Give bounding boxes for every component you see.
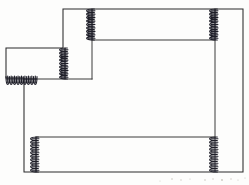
paper-speck-4 <box>212 178 213 179</box>
paper-speck-7 <box>237 179 238 180</box>
paper-speck-9 <box>244 177 245 178</box>
paper-speck-8 <box>160 181 161 182</box>
spring-bottom-right <box>210 137 218 172</box>
paper-speck-6 <box>230 178 231 179</box>
spring-step-vertical-coils <box>60 48 68 79</box>
spring-step-vertical <box>60 48 68 79</box>
spring-bottom-left <box>31 137 39 172</box>
paper-speck-3 <box>204 179 206 181</box>
paper-speck-2 <box>189 178 190 179</box>
spring-top-left <box>87 9 95 40</box>
spring-top-right-coils <box>210 9 218 40</box>
technical-drawing-canvas <box>0 0 249 185</box>
stepped-frame-diagram <box>0 0 249 185</box>
spring-left-horizontal <box>6 76 37 84</box>
spring-top-right <box>210 9 218 40</box>
outer-outline-group <box>6 9 243 172</box>
spring-bottom-left-coils <box>31 137 39 172</box>
outer-stepped-outline <box>6 9 243 172</box>
coil-springs-group <box>6 9 218 172</box>
spring-bottom-right-coils <box>210 137 218 172</box>
spring-left-horizontal-coils <box>6 76 37 84</box>
paper-speck-0 <box>171 178 173 180</box>
paper-speck-1 <box>180 179 181 180</box>
spring-top-left-coils <box>87 9 95 40</box>
paper-speck-5 <box>221 179 223 181</box>
paper-specks-group <box>160 177 246 181</box>
inner-lines-group <box>24 9 215 172</box>
